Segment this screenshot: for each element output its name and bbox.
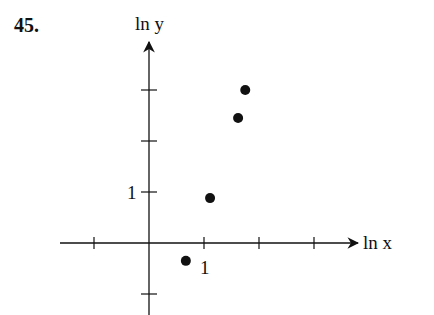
- x-axis-label: ln x: [363, 232, 393, 253]
- y-tick-label: 1: [127, 182, 137, 203]
- data-points: [181, 85, 250, 266]
- data-point: [205, 193, 215, 203]
- y-axis-label: ln y: [135, 13, 165, 34]
- axis-ticks: 11: [94, 90, 314, 294]
- scatter-plot: 11 ln x ln y: [0, 0, 434, 315]
- x-tick-label: 1: [200, 257, 210, 278]
- data-point: [233, 113, 243, 123]
- data-point: [181, 256, 191, 266]
- data-point: [240, 85, 250, 95]
